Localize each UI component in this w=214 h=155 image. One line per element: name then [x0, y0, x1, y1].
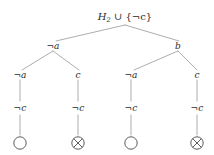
tableau-figure: H2 ∪ {¬c} ¬a b ¬a c ¬a c ¬c ¬c ¬c ¬c — [0, 0, 214, 155]
root-set-literal: {¬c} — [125, 11, 152, 22]
leaf-shapes — [14, 137, 203, 149]
level1-node-b: b — [175, 42, 181, 51]
leaf-open-circle-1 — [14, 137, 26, 149]
level3-node-not-c-1: ¬c — [14, 104, 27, 113]
level2-node-not-a-left: ¬a — [13, 71, 26, 80]
edge-l1right-to-l2c — [134, 51, 178, 70]
level2-node-not-a-right: ¬a — [124, 71, 137, 80]
edge-l1left-to-l2b — [53, 51, 79, 70]
level1-node-not-a: ¬a — [46, 42, 59, 51]
level2-node-c-right: c — [194, 71, 199, 80]
level2-node-c-left: c — [75, 71, 80, 80]
root-h-symbol: H — [98, 11, 107, 22]
leaf-open-circle-2 — [125, 137, 137, 149]
level3-node-not-c-3: ¬c — [125, 104, 138, 113]
level3-node-not-c-2: ¬c — [72, 104, 85, 113]
level3-node-not-c-4: ¬c — [191, 104, 204, 113]
root-node-label: H2 ∪ {¬c} — [98, 12, 152, 22]
edge-root-to-left — [56, 25, 125, 41]
edge-root-to-right — [125, 25, 179, 41]
edge-l1left-to-l2a — [22, 51, 53, 70]
root-subscript: 2 — [107, 16, 111, 24]
root-union-operator: ∪ — [111, 11, 126, 22]
edge-l1right-to-l2d — [178, 51, 197, 70]
